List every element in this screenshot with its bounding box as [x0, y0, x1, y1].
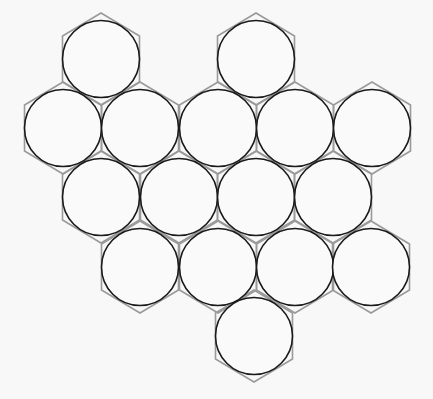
circle-packing-diagram — [0, 0, 433, 399]
packed-circle — [63, 159, 140, 236]
packed-circle — [102, 90, 179, 167]
packed-circle — [334, 90, 411, 167]
packed-circle — [180, 229, 257, 306]
packed-circle — [102, 229, 179, 306]
packed-circle — [216, 298, 293, 375]
packed-circle — [25, 90, 102, 167]
packed-circle — [218, 21, 295, 98]
packed-circle — [257, 90, 334, 167]
packed-circle — [180, 90, 257, 167]
packed-circle — [218, 159, 295, 236]
packed-circle — [295, 159, 372, 236]
packed-circle — [141, 159, 218, 236]
packed-circle — [63, 21, 140, 98]
packed-circle — [257, 229, 334, 306]
packed-circle — [333, 229, 410, 306]
